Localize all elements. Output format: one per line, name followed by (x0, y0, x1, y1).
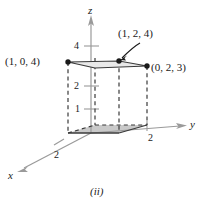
x-tick-2 (54, 139, 64, 145)
vertex-dot-1-0-4 (65, 59, 70, 64)
vertex-dot-1-2-4 (116, 58, 121, 63)
leader-arrow-curve (122, 43, 140, 58)
point-0-2-3-label: (0, 2, 3) (151, 62, 186, 73)
box-dashed-edges (68, 58, 147, 133)
x-axis-label: x (8, 170, 13, 181)
z-tick-label-4: 4 (74, 41, 79, 51)
leader-arrow-1-2-4 (120, 43, 140, 61)
point-1-2-4-label: (1, 2, 4) (118, 28, 153, 39)
y-tick-label-2: 2 (148, 133, 153, 143)
vertex-dot-0-2-3 (144, 63, 149, 68)
x-tick-label-2: 2 (54, 150, 59, 160)
top-plane (68, 61, 147, 68)
z-tick-label-1: 1 (75, 104, 80, 114)
z-axis-label: z (88, 5, 92, 16)
figure-container: (1, 0, 4) (1, 2, 4) (0, 2, 3) 4 2 1 2 2 … (0, 0, 199, 205)
figure-caption: (ii) (90, 186, 103, 197)
y-axis-label: y (190, 119, 195, 130)
z-tick-label-2: 2 (74, 81, 79, 91)
axis-arrowheads (17, 15, 187, 172)
axis-lines (24, 22, 180, 168)
three-d-box-diagram (0, 0, 199, 205)
point-1-0-4-label: (1, 0, 4) (5, 56, 40, 67)
